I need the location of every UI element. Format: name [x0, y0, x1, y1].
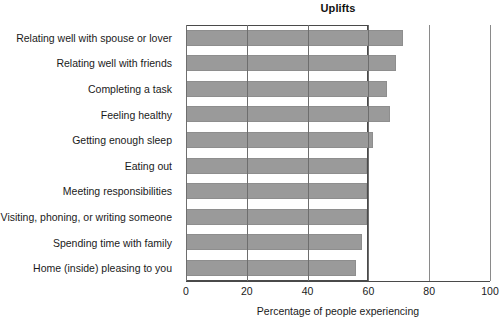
bar-row [186, 153, 490, 179]
gridline-40 [308, 25, 309, 281]
category-label: Visiting, phoning, or writing someone [0, 211, 172, 223]
gridline-60 [368, 25, 369, 281]
bar [186, 132, 373, 148]
bar [186, 81, 387, 97]
category-label: Home (inside) pleasing to you [0, 262, 172, 274]
category-axis-labels: Relating well with spouse or loverRelati… [0, 25, 180, 281]
category-label: Getting enough sleep [0, 134, 172, 146]
bar-row [186, 204, 490, 230]
category-label: Spending time with family [0, 237, 172, 249]
x-axis-title: Percentage of people experiencing [186, 305, 490, 317]
category-label: Relating well with spouse or lover [0, 32, 172, 44]
chart-title: Uplifts [186, 2, 490, 14]
x-tick-label-40: 40 [293, 285, 323, 297]
bar [186, 158, 367, 174]
bar [186, 260, 356, 276]
bar-series [186, 25, 490, 281]
category-label: Feeling healthy [0, 109, 172, 121]
plot-area [186, 25, 490, 281]
category-label: Meeting responsibilities [0, 185, 172, 197]
bar-row [186, 25, 490, 51]
bar-row [186, 179, 490, 205]
x-tick-label-80: 80 [414, 285, 444, 297]
category-label: Eating out [0, 160, 172, 172]
category-label: Completing a task [0, 83, 172, 95]
x-tick-label-20: 20 [232, 285, 262, 297]
category-label: Relating well with friends [0, 57, 172, 69]
gridline-80 [429, 25, 430, 281]
bar [186, 183, 367, 199]
uplifts-bar-chart: Uplifts Relating well with spouse or lov… [0, 0, 500, 326]
bar-row [186, 102, 490, 128]
gridline-100 [490, 25, 491, 281]
x-tick-label-60: 60 [353, 285, 383, 297]
x-tick-label-100: 100 [475, 285, 500, 297]
gridline-0 [186, 25, 187, 281]
bar-row [186, 127, 490, 153]
x-axis-line [186, 281, 490, 282]
x-tick-label-0: 0 [171, 285, 201, 297]
bar-row [186, 51, 490, 77]
gridline-20 [247, 25, 248, 281]
bar [186, 234, 362, 250]
bar [186, 106, 390, 122]
bar [186, 30, 403, 46]
bar-row [186, 230, 490, 256]
bar-row [186, 255, 490, 281]
bar-row [186, 76, 490, 102]
bar [186, 209, 367, 225]
bar [186, 55, 396, 71]
